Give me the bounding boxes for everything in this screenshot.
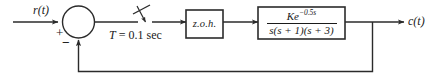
- block-diagram: r(t) + − T = 0.1 sec z.o.h. Ke−0.5s s(s …: [0, 0, 439, 80]
- transfer-function-numerator-exponent: −0.5s: [299, 8, 316, 17]
- summing-junction: [63, 6, 95, 38]
- zoh-block-label: z.o.h.: [186, 10, 223, 38]
- plant-transfer-function: Ke−0.5s s(s + 1)(s + 3): [258, 7, 345, 39]
- sampling-period-symbol: T: [109, 28, 116, 42]
- transfer-function-denominator: s(s + 1)(s + 3): [269, 24, 333, 37]
- output-signal-label: c(t): [408, 15, 425, 27]
- summing-junction-minus-sign: −: [62, 36, 70, 49]
- sampling-period-value: = 0.1 sec: [116, 28, 162, 42]
- transfer-function-numerator: Ke−0.5s: [287, 9, 317, 23]
- transfer-function-numerator-base: Ke: [287, 10, 299, 22]
- sampler-switch-blade: [133, 5, 150, 14]
- input-signal-label: r(t): [33, 4, 49, 16]
- sampling-period-label: T = 0.1 sec: [109, 29, 162, 41]
